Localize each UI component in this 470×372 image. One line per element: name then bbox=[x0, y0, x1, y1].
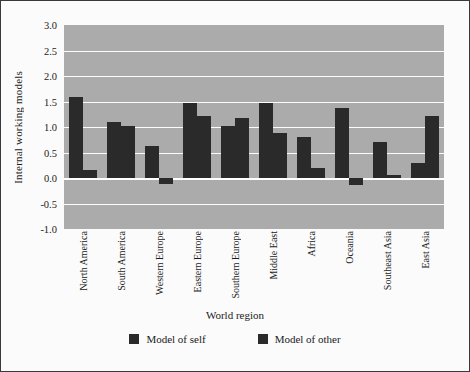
x-axis-title-text: World region bbox=[206, 309, 264, 321]
bar bbox=[297, 137, 311, 178]
bar bbox=[197, 116, 211, 178]
bar bbox=[335, 108, 349, 178]
chart-figure: Internal working models 3.02.52.01.51.00… bbox=[0, 0, 470, 372]
bar bbox=[425, 116, 439, 178]
y-axis-tick-label: 2.5 bbox=[44, 45, 57, 56]
bar bbox=[183, 103, 197, 178]
bar bbox=[411, 163, 425, 178]
y-axis-tick-label: 2.0 bbox=[44, 71, 57, 82]
x-axis-tick-label-text: Western Europe bbox=[154, 231, 165, 295]
x-axis-tick-label-text: North America bbox=[78, 231, 89, 291]
bar-group bbox=[297, 25, 325, 229]
legend-swatch-icon bbox=[129, 334, 139, 344]
legend-entry[interactable]: Model of other bbox=[258, 333, 341, 345]
bar bbox=[221, 126, 235, 178]
bar-group bbox=[335, 25, 363, 229]
bar bbox=[259, 103, 273, 178]
x-axis-tick-label-text: East Asia bbox=[420, 231, 431, 269]
x-axis-tick-label: Southern Europe bbox=[216, 231, 254, 307]
y-axis-tick-label: -0.5 bbox=[40, 198, 57, 209]
bar bbox=[311, 168, 325, 178]
x-axis-tick-label-text: Middle East bbox=[268, 231, 279, 280]
legend-label: Model of other bbox=[275, 333, 341, 345]
x-axis-tick-label-text: Southeast Asia bbox=[382, 231, 393, 290]
x-axis-tick-label: Africa bbox=[292, 231, 330, 307]
bar bbox=[159, 178, 173, 184]
y-axis-tick-label: 3.0 bbox=[44, 20, 57, 31]
bar bbox=[107, 122, 121, 178]
y-axis-title: Internal working models bbox=[7, 25, 29, 229]
x-axis-tick-label: Eastern Europe bbox=[178, 231, 216, 307]
x-axis-tick-label: Oceania bbox=[330, 231, 368, 307]
x-axis-tick-label-text: South America bbox=[116, 231, 127, 291]
bar-group bbox=[411, 25, 439, 229]
x-axis-tick-labels: North AmericaSouth AmericaWestern Europe… bbox=[64, 231, 444, 307]
chart-legend: Model of selfModel of other bbox=[1, 333, 469, 345]
y-axis-tick-label: 1.5 bbox=[44, 96, 57, 107]
y-axis-tick-label: -1.0 bbox=[40, 224, 57, 235]
x-axis-tick-label-text: Southern Europe bbox=[230, 231, 241, 299]
legend-swatch-icon bbox=[258, 334, 268, 344]
y-axis-tick-label: 0.0 bbox=[44, 173, 57, 184]
bar bbox=[235, 118, 249, 178]
legend-entry[interactable]: Model of self bbox=[129, 333, 205, 345]
bar-group bbox=[107, 25, 135, 229]
bar-group bbox=[221, 25, 249, 229]
bar bbox=[387, 175, 401, 178]
x-axis-tick-label: South America bbox=[102, 231, 140, 307]
y-axis-tick-label: 1.0 bbox=[44, 122, 57, 133]
x-axis-tick-label: North America bbox=[64, 231, 102, 307]
bar bbox=[273, 133, 287, 178]
x-axis-tick-label: East Asia bbox=[406, 231, 444, 307]
bar bbox=[145, 146, 159, 178]
y-axis-tick-labels: 3.02.52.01.51.00.50.0-0.5-1.0 bbox=[29, 25, 61, 229]
x-axis-tick-label-text: Oceania bbox=[344, 231, 355, 264]
y-axis-tick-label: 0.5 bbox=[44, 147, 57, 158]
plot-area bbox=[64, 25, 444, 229]
bar bbox=[121, 126, 135, 178]
x-axis-title: World region bbox=[1, 309, 469, 321]
bar bbox=[83, 170, 97, 178]
x-axis-tick-label: Western Europe bbox=[140, 231, 178, 307]
bar-group bbox=[183, 25, 211, 229]
bar bbox=[373, 142, 387, 178]
bar-group bbox=[69, 25, 97, 229]
bar-group bbox=[259, 25, 287, 229]
x-axis-tick-label: Southeast Asia bbox=[368, 231, 406, 307]
x-axis-tick-label-text: Eastern Europe bbox=[192, 231, 203, 292]
bar bbox=[69, 97, 83, 178]
bar-group bbox=[373, 25, 401, 229]
y-axis-title-text: Internal working models bbox=[12, 71, 24, 184]
bar-group bbox=[145, 25, 173, 229]
bar bbox=[349, 178, 363, 185]
x-axis-tick-label-text: Africa bbox=[306, 231, 317, 257]
x-axis-tick-label: Middle East bbox=[254, 231, 292, 307]
legend-label: Model of self bbox=[146, 333, 205, 345]
